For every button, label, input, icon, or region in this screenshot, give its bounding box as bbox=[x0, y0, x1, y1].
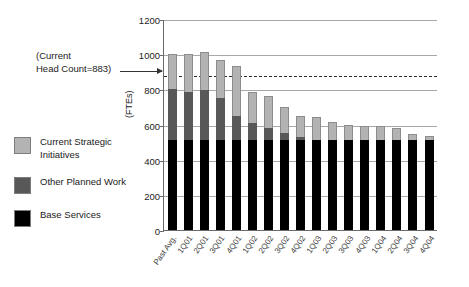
legend-item-base: Base Services bbox=[14, 209, 136, 227]
x-label-cell: 3Q02 bbox=[276, 233, 292, 287]
stacked-bar bbox=[344, 125, 353, 230]
x-label-cell: Past Avg. bbox=[163, 233, 179, 287]
x-label-cell: 4Q02 bbox=[292, 233, 308, 287]
bar-segment-csi bbox=[200, 52, 209, 90]
x-tick-label: 4Q04 bbox=[418, 234, 437, 255]
bar-cell bbox=[325, 20, 341, 230]
bar-segment-csi bbox=[312, 117, 321, 140]
x-tick-label: 1Q01 bbox=[176, 234, 195, 255]
annotation-line-2: Head Count=883) bbox=[36, 62, 111, 75]
x-tick-label: 3Q04 bbox=[402, 234, 421, 255]
legend-label-base: Base Services bbox=[40, 209, 101, 222]
bar-cell bbox=[180, 20, 196, 230]
y-tick-label: 600 bbox=[144, 120, 160, 131]
x-label-cell: 2Q01 bbox=[195, 233, 211, 287]
y-tick-label: 400 bbox=[144, 155, 160, 166]
bar-segment-base bbox=[168, 140, 177, 230]
bar-segment-csi bbox=[184, 54, 193, 92]
y-tick-label: 200 bbox=[144, 190, 160, 201]
stacked-bar bbox=[312, 117, 321, 230]
bar-segment-csi bbox=[216, 60, 225, 98]
bar-segment-opw bbox=[248, 123, 257, 141]
bar-segment-base bbox=[200, 140, 209, 230]
bar-segment-opw bbox=[216, 98, 225, 140]
y-tick-label: 1000 bbox=[139, 50, 160, 61]
bar-cell bbox=[389, 20, 405, 230]
x-label-cell: 3Q01 bbox=[211, 233, 227, 287]
x-tick-label: 2Q02 bbox=[257, 234, 276, 255]
head-count-annotation: (Current Head Count=883) bbox=[36, 49, 111, 75]
bar-cell bbox=[357, 20, 373, 230]
bar-segment-base bbox=[344, 140, 353, 230]
bar-cell bbox=[244, 20, 260, 230]
stacked-bar bbox=[200, 52, 209, 230]
annotation-line-1: (Current bbox=[36, 49, 111, 62]
x-label-cell: 3Q04 bbox=[405, 233, 421, 287]
bar-segment-csi bbox=[392, 128, 401, 140]
bar-segment-csi bbox=[232, 66, 241, 116]
x-label-cell: 1Q02 bbox=[244, 233, 260, 287]
bar-series bbox=[164, 20, 437, 230]
bar-segment-opw bbox=[200, 90, 209, 140]
legend-item-opw: Other Planned Work bbox=[14, 176, 136, 194]
stacked-bar bbox=[296, 116, 305, 230]
legend-swatch-base bbox=[14, 210, 31, 227]
bar-segment-csi bbox=[248, 92, 257, 123]
y-tick-label: 800 bbox=[144, 85, 160, 96]
x-label-cell: 1Q03 bbox=[308, 233, 324, 287]
bar-cell bbox=[228, 20, 244, 230]
x-tick-label: 2Q04 bbox=[386, 234, 405, 255]
y-tick-label: 1200 bbox=[139, 15, 160, 26]
stacked-bar bbox=[248, 92, 257, 230]
bar-cell bbox=[373, 20, 389, 230]
bar-segment-base bbox=[264, 140, 273, 230]
x-tick-label: 3Q03 bbox=[337, 234, 356, 255]
stacked-bar bbox=[376, 126, 385, 230]
stacked-bar bbox=[184, 54, 193, 230]
x-tick-label: 1Q03 bbox=[305, 234, 324, 255]
bar-cell bbox=[196, 20, 212, 230]
x-label-cell: 4Q03 bbox=[357, 233, 373, 287]
bar-segment-base bbox=[216, 140, 225, 230]
x-tick-label: 3Q02 bbox=[273, 234, 292, 255]
x-tick-label: 1Q02 bbox=[240, 234, 259, 255]
stacked-bar bbox=[216, 60, 225, 230]
bar-segment-opw bbox=[168, 89, 177, 140]
bar-segment-opw bbox=[232, 116, 241, 141]
x-tick-label: 1Q04 bbox=[369, 234, 388, 255]
bar-segment-base bbox=[328, 140, 337, 230]
x-tick-label: Past Avg. bbox=[152, 234, 179, 267]
bar-cell bbox=[309, 20, 325, 230]
stacked-bar bbox=[328, 122, 337, 230]
chart-container: (Current Head Count=883) Current Strateg… bbox=[0, 0, 469, 287]
bar-segment-base bbox=[360, 140, 369, 230]
bar-cell bbox=[293, 20, 309, 230]
legend-swatch-opw bbox=[14, 177, 31, 194]
stacked-bar bbox=[232, 66, 241, 230]
x-label-cell: 4Q04 bbox=[421, 233, 437, 287]
bar-cell bbox=[276, 20, 292, 230]
x-tick-label: 2Q03 bbox=[321, 234, 340, 255]
legend: Current Strategic Initiatives Other Plan… bbox=[14, 136, 136, 242]
stacked-bar bbox=[264, 96, 273, 230]
bar-segment-base bbox=[376, 140, 385, 230]
bar-segment-csi bbox=[296, 116, 305, 137]
stacked-bar bbox=[425, 136, 434, 230]
x-label-cell: 2Q02 bbox=[260, 233, 276, 287]
bar-segment-base bbox=[296, 140, 305, 230]
bar-segment-base bbox=[248, 140, 257, 230]
stacked-bar bbox=[392, 128, 401, 230]
bar-segment-csi bbox=[264, 96, 273, 128]
bar-segment-base bbox=[425, 140, 434, 230]
bar-segment-base bbox=[312, 140, 321, 230]
bar-segment-csi bbox=[344, 125, 353, 141]
y-tick-mark bbox=[160, 231, 164, 232]
x-label-cell: 2Q03 bbox=[324, 233, 340, 287]
bar-cell bbox=[212, 20, 228, 230]
x-axis-labels: Past Avg.1Q012Q013Q014Q011Q022Q023Q024Q0… bbox=[163, 233, 437, 287]
x-label-cell: 1Q04 bbox=[373, 233, 389, 287]
stacked-bar bbox=[168, 54, 177, 230]
bar-segment-csi bbox=[280, 107, 289, 133]
bar-segment-opw bbox=[280, 133, 289, 140]
annotation-arrow-icon bbox=[120, 71, 162, 72]
